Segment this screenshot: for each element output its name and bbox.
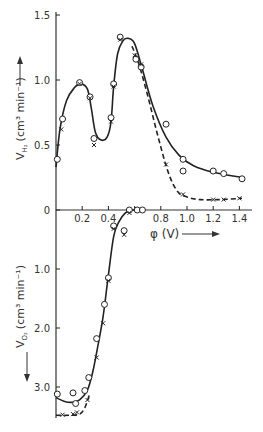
data-markers	[54, 34, 245, 417]
circle-marker	[180, 156, 186, 162]
x-tick-label: 1.0	[179, 213, 195, 224]
upper-y-arrow-head	[17, 56, 23, 64]
circle-marker	[221, 171, 227, 177]
x-axis-title: φ (V)	[150, 227, 179, 241]
x-axis-arrow-head	[212, 231, 220, 237]
upper-y-tick-label: 0	[44, 205, 50, 216]
lower-y-tick-label: 1.0	[34, 264, 50, 275]
circle-marker	[73, 401, 79, 407]
upper-y-tick-label: 1.0	[34, 75, 50, 86]
circle-marker	[87, 94, 93, 100]
svg-text:VH₂(cm³ min⁻¹): VH₂(cm³ min⁻¹)	[14, 77, 29, 160]
circle-marker	[91, 136, 97, 142]
lower-y-tick-label: 3.0	[34, 382, 50, 393]
lower-y-arrow-head	[24, 374, 30, 382]
circle-marker	[121, 228, 127, 234]
svg-text:VO₂(cm³ min⁻¹): VO₂(cm³ min⁻¹)	[14, 265, 29, 348]
circle-marker	[111, 223, 117, 229]
curves	[56, 38, 242, 415]
circle-marker	[77, 80, 83, 86]
x-tick-label: 1.2	[205, 213, 221, 224]
circle-marker	[94, 336, 100, 342]
upper-y-tick-label: 0.5	[34, 140, 50, 151]
circle-marker	[101, 301, 107, 307]
circle-marker	[239, 176, 245, 182]
cross-marker	[181, 192, 185, 196]
upper-y-axis-title: VH₂(cm³ min⁻¹)	[14, 77, 29, 160]
x-tick-label: 0.4	[100, 213, 116, 224]
cross-marker	[75, 410, 79, 414]
upper-y-tick-label: 1.5	[34, 10, 50, 21]
circle-marker	[86, 375, 92, 381]
lower-y-axis-title: VO₂(cm³ min⁻¹)	[14, 265, 29, 348]
circle-marker	[60, 116, 66, 122]
circle-marker	[105, 275, 111, 281]
x-tick-label: 0.2	[74, 213, 90, 224]
circle-marker	[82, 388, 88, 394]
circle-marker	[54, 156, 60, 162]
x-tick-label: 0.8	[153, 213, 169, 224]
cross-marker	[92, 143, 96, 147]
circle-marker	[54, 391, 60, 397]
circle-marker	[180, 168, 186, 174]
circle-marker	[210, 168, 216, 174]
chart: 0.20.40.81.01.21.41.51.00.501.02.03.0 φ …	[0, 0, 263, 432]
upper-dashed-curve	[132, 46, 242, 200]
x-tick-label: 1.4	[231, 213, 247, 224]
circle-marker	[139, 207, 145, 213]
cross-marker	[211, 198, 215, 202]
lower-y-tick-label: 2.0	[34, 323, 50, 334]
circle-marker	[70, 390, 76, 396]
cross-marker	[61, 413, 65, 417]
circle-marker	[163, 121, 169, 127]
upper-solid-curve	[56, 38, 242, 177]
lower-solid-curve	[56, 210, 145, 403]
circle-marker	[126, 207, 132, 213]
